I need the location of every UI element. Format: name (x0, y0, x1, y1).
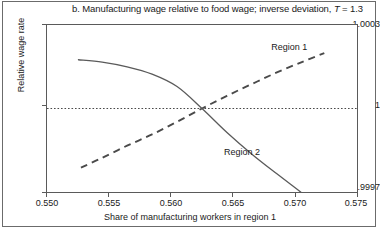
x-tick-mark-4 (295, 193, 296, 197)
figure-container: b. Manufacturing wage relative to food w… (0, 0, 380, 235)
x-tick-mark-5 (357, 193, 358, 197)
x-tick-label-0: 0.550 (36, 198, 59, 208)
y-axis-label: Relative wage rate (16, 0, 26, 120)
region-1-series-label: Region 1 (271, 42, 307, 52)
region-1-curve (81, 53, 324, 168)
x-tick-label-5: 0.575 (345, 198, 368, 208)
x-tick-label-4: 0.570 (284, 198, 307, 208)
region-2-series-label: Region 2 (224, 147, 260, 157)
region-2-curve (78, 60, 321, 193)
x-tick-label-3: 0.565 (222, 198, 245, 208)
x-tick-label-1: 0.555 (98, 198, 121, 208)
chart-title-prefix: b. Manufacturing wage relative to food w… (72, 3, 334, 14)
x-tick-label-2: 0.560 (160, 198, 183, 208)
x-tick-mark-3 (232, 193, 233, 197)
x-tick-mark-2 (170, 193, 171, 197)
chart-curves (46, 24, 358, 193)
x-tick-mark-1 (108, 193, 109, 197)
chart-title-suffix: = 1.3 (340, 3, 363, 14)
x-axis-label: Share of manufacturing workers in region… (0, 212, 380, 222)
x-tick-mark-0 (46, 193, 47, 197)
chart-title: b. Manufacturing wage relative to food w… (72, 3, 363, 14)
